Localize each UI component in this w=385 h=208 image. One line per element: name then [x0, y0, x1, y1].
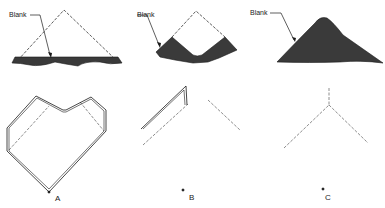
panel-c-caption: C	[325, 193, 331, 202]
panel-a-blank: Blank	[9, 10, 122, 66]
panel-a-formed-part	[7, 96, 106, 193]
panel-c-blank: Blank	[250, 9, 383, 63]
blank-to-part-diagram: Blank Blank Blank A B	[0, 0, 385, 208]
panel-c-formed-part	[282, 88, 368, 190]
panel-a-caption: A	[55, 194, 61, 203]
diagram-stage: Blank Blank Blank A B	[0, 0, 385, 208]
panel-b-formed-part	[141, 86, 240, 191]
blank-callout-label: Blank	[250, 9, 268, 16]
panel-b-caption: B	[189, 193, 194, 202]
blank-callout-label: Blank	[9, 11, 27, 18]
panel-b-blank: Blank	[137, 11, 237, 63]
blank-callout-label: Blank	[137, 11, 155, 18]
